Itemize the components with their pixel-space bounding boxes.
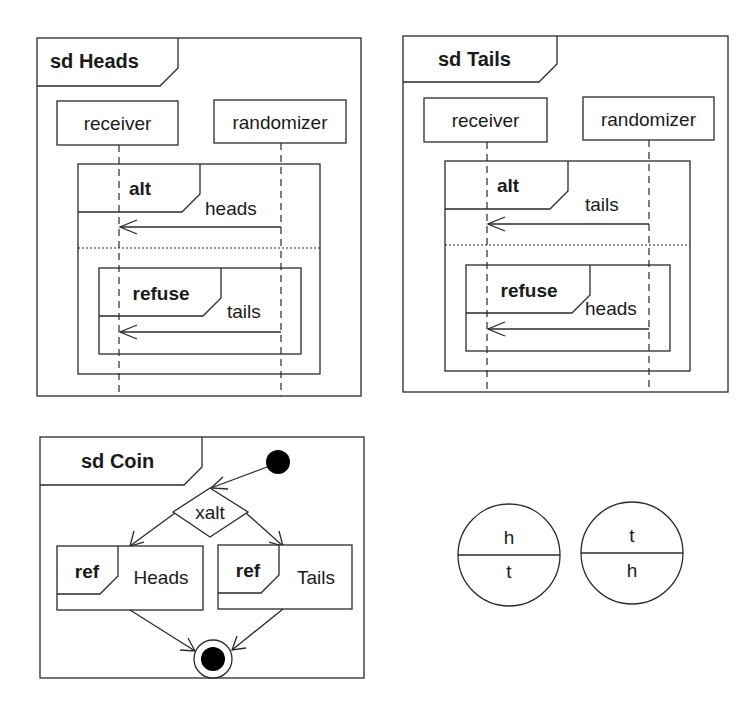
frame-title: sd Coin [81, 450, 154, 472]
diagram-canvas: sd Heads receiver randomizer alt heads r… [0, 0, 755, 708]
coin-heads-up: h t [458, 504, 560, 606]
refuse-fragment [99, 268, 301, 354]
alt-guard: heads [205, 198, 257, 219]
ref-keyword: ref [236, 560, 261, 581]
ref-tails: ref Tails [218, 545, 352, 609]
lifeline-randomizer-label: randomizer [232, 112, 328, 133]
alt-guard: tails [585, 194, 619, 215]
final-node-icon [201, 647, 225, 671]
sd-tails-frame: sd Tails receiver randomizer alt tails r… [403, 36, 728, 392]
coin-bottom-label: h [627, 560, 638, 581]
ref-name: Tails [297, 567, 335, 588]
coin-top-label: t [629, 525, 635, 546]
ref-heads: ref Heads [57, 546, 203, 610]
lifeline-receiver-label: receiver [84, 113, 152, 134]
coin-top-label: h [504, 527, 515, 548]
refuse-fragment [466, 265, 670, 351]
initial-node-icon [266, 450, 290, 474]
ref-name: Heads [134, 567, 189, 588]
refuse-operator: refuse [500, 280, 557, 301]
sd-coin-frame: sd Coin xalt ref Heads ref [40, 437, 364, 678]
decision-label: xalt [195, 502, 225, 523]
sd-heads-frame: sd Heads receiver randomizer alt heads r… [37, 38, 361, 396]
lifeline-randomizer-label: randomizer [601, 109, 697, 130]
ref-keyword: ref [75, 561, 100, 582]
refuse-guard: heads [585, 298, 637, 319]
lifeline-receiver-label: receiver [452, 110, 520, 131]
frame-title: sd Heads [50, 50, 139, 72]
coin-bottom-label: t [506, 561, 512, 582]
frame-title: sd Tails [438, 48, 511, 70]
refuse-operator: refuse [132, 283, 189, 304]
alt-operator: alt [497, 175, 520, 196]
alt-operator: alt [129, 178, 152, 199]
refuse-guard: tails [227, 301, 261, 322]
coin-tails-up: t h [581, 502, 683, 604]
